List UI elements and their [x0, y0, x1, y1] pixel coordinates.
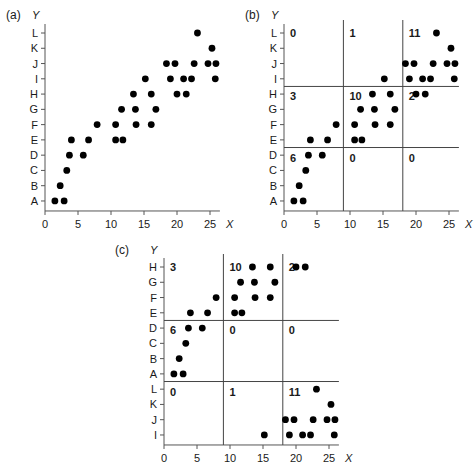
data-point — [182, 340, 189, 347]
data-point — [387, 121, 394, 128]
data-point — [212, 75, 219, 82]
data-point — [112, 136, 119, 143]
y-tick-label: B — [150, 353, 157, 365]
y-tick-label: C — [269, 164, 277, 176]
data-point — [328, 401, 335, 408]
data-point — [187, 309, 194, 316]
panel-label: (a) — [6, 8, 21, 22]
data-point — [148, 121, 155, 128]
data-point — [413, 91, 420, 98]
y-tick-label: D — [30, 149, 38, 161]
data-point — [324, 416, 331, 423]
y-axis-title: Y — [150, 244, 158, 256]
data-point — [132, 106, 139, 113]
y-tick-label: F — [270, 119, 277, 131]
y-tick-label: C — [149, 337, 157, 349]
data-point — [372, 121, 379, 128]
data-point — [52, 198, 59, 205]
y-tick-label: I — [35, 73, 38, 85]
y-tick-label: E — [150, 307, 157, 319]
y-tick-label: I — [154, 429, 157, 441]
cell-count-label: 11 — [289, 386, 301, 398]
data-point — [286, 432, 293, 439]
data-point — [305, 152, 312, 159]
y-tick-label: K — [270, 42, 278, 54]
x-tick-label: 15 — [257, 452, 269, 464]
data-point — [199, 325, 206, 332]
data-point — [194, 30, 201, 37]
data-point — [130, 91, 137, 98]
y-axis-title: Y — [32, 9, 40, 21]
cell-count-label: 1 — [229, 386, 235, 398]
y-tick-label: H — [30, 88, 38, 100]
y-tick-label: H — [269, 88, 277, 100]
cell-count-label: 3 — [290, 90, 296, 102]
data-point — [231, 294, 238, 301]
cell-count-label: 0 — [349, 152, 355, 164]
data-point — [296, 182, 303, 189]
data-point — [319, 152, 326, 159]
data-point — [237, 279, 244, 286]
data-point — [451, 75, 458, 82]
data-point — [302, 264, 309, 271]
data-point — [452, 60, 459, 67]
y-tick-label: F — [150, 292, 157, 304]
data-point — [430, 60, 437, 67]
x-tick-label: 5 — [194, 452, 200, 464]
data-point — [419, 75, 426, 82]
x-axis-title: X — [225, 218, 234, 230]
data-point — [302, 167, 309, 174]
data-point — [213, 294, 220, 301]
data-point — [251, 279, 258, 286]
y-tick-label: K — [31, 42, 39, 54]
cell-count-label: 10 — [229, 261, 241, 273]
data-point — [163, 60, 170, 67]
x-tick-label: 15 — [377, 218, 389, 230]
panel-label: (b) — [245, 8, 260, 22]
y-tick-label: A — [31, 195, 39, 207]
data-point — [66, 152, 73, 159]
data-point — [191, 60, 198, 67]
data-point — [444, 60, 451, 67]
y-tick-label: I — [274, 73, 277, 85]
data-point — [307, 432, 314, 439]
data-point — [152, 106, 159, 113]
x-tick-label: 0 — [161, 452, 167, 464]
data-point — [118, 106, 125, 113]
data-point — [387, 91, 394, 98]
cell-count-label: 6 — [170, 324, 176, 336]
data-point — [332, 416, 339, 423]
y-tick-label: L — [271, 27, 277, 39]
cell-count-label: 1 — [349, 27, 355, 39]
data-point — [369, 91, 376, 98]
data-point — [80, 152, 87, 159]
data-point — [68, 136, 75, 143]
x-axis-title: X — [464, 218, 473, 230]
data-point — [427, 75, 434, 82]
x-tick-label: 20 — [290, 452, 302, 464]
data-point — [282, 416, 289, 423]
data-point — [61, 198, 68, 205]
data-point — [293, 264, 300, 271]
y-tick-label: G — [29, 103, 38, 115]
data-point — [391, 106, 398, 113]
data-point — [381, 75, 388, 82]
data-point — [180, 75, 187, 82]
data-point — [411, 60, 418, 67]
chart-panel-c: (c)YHGFEDCBALKJI0510152025X31026000111 — [115, 243, 353, 464]
data-point — [148, 91, 155, 98]
data-point — [119, 136, 126, 143]
cell-count-label: 3 — [170, 261, 176, 273]
cell-count-label: 10 — [349, 90, 361, 102]
data-point — [112, 121, 119, 128]
cell-count-label: 0 — [170, 386, 176, 398]
x-tick-label: 15 — [138, 218, 150, 230]
data-point — [448, 45, 455, 52]
x-tick-label: 0 — [281, 218, 287, 230]
y-tick-label: D — [149, 322, 157, 334]
data-point — [357, 106, 364, 113]
data-point — [307, 136, 314, 143]
x-tick-label: 20 — [410, 218, 422, 230]
data-point — [324, 136, 331, 143]
data-point — [231, 309, 238, 316]
